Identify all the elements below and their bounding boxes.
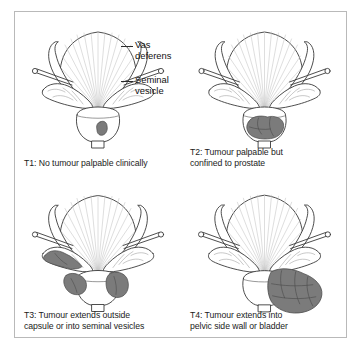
vas-cut-end-right [325, 232, 330, 237]
vas-deferens-label-line-1: Vas [135, 40, 171, 51]
seminal-vesicle-leader-dash-icon [121, 81, 133, 82]
vas-deferens-label-line-2: deferens [135, 51, 171, 62]
seminal-vesicle-label-line-2: vesicle [135, 86, 169, 97]
vas-deferens-leader-dash-icon [121, 46, 133, 47]
caption-line-1: T2: Tumour palpable but [190, 147, 344, 158]
vas-cut-end-right [158, 232, 163, 237]
caption-line-2: capsule or into seminal vesicles [24, 321, 177, 332]
vas-cut-end-left [32, 232, 37, 237]
panel-caption-t1: T1: No tumour palpable clinically [24, 158, 177, 169]
seminal-vesicle-label-line-1: Seminal [135, 75, 169, 86]
tumour-nodule [97, 121, 108, 135]
caption-line-1: T4: Tumour extends into [190, 310, 344, 321]
vas-cut-end-right [325, 68, 330, 73]
vas-cut-end-left [199, 68, 204, 73]
vas-cut-end-left [199, 232, 204, 237]
urethra [92, 141, 104, 148]
caption-line-2: confined to prostate [190, 158, 344, 169]
vas-deferens-label: Vas deferens [135, 40, 171, 61]
panel-t2: T2: Tumour palpable but confined to pros… [181, 12, 348, 175]
caption-line-1: T3: Tumour extends outside [24, 310, 177, 321]
seminal-vesicle-label: Seminal vesicle [135, 75, 169, 96]
tumour-capsule-right [106, 272, 128, 297]
anatomy-diagram-t2 [181, 12, 348, 152]
caption-line-1: T1: No tumour palpable clinically [24, 158, 148, 168]
vas-cut-end-left [32, 68, 37, 73]
panel-caption-t3: T3: Tumour extends outside capsule or in… [24, 310, 177, 332]
panel-caption-t4: T4: Tumour extends into pelvic side wall… [190, 310, 344, 332]
anatomy-diagram-t4 [181, 175, 348, 316]
panel-caption-t2: T2: Tumour palpable but confined to pros… [190, 147, 344, 169]
figure-frame: T1: No tumour palpable clinically [14, 11, 347, 338]
anatomy-diagram-t3 [15, 175, 181, 316]
panel-t3: T3: Tumour extends outside capsule or in… [15, 175, 181, 339]
vas-cut-end-right [158, 68, 163, 73]
panel-t4: T4: Tumour extends into pelvic side wall… [181, 175, 348, 339]
caption-line-2: pelvic side wall or bladder [190, 321, 344, 332]
